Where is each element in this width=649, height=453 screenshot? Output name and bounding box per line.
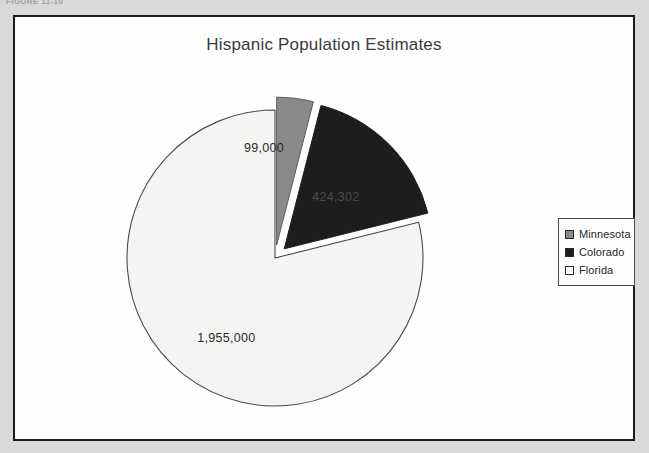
legend-swatch-florida	[565, 266, 574, 275]
legend-item-colorado[interactable]: Colorado	[565, 243, 627, 261]
legend-item-minnesota[interactable]: Minnesota	[565, 225, 627, 243]
chart-frame: Hispanic Population Estimates 99,000 424…	[13, 15, 635, 441]
pie-plot-area: 99,000 424,302 1,955,000	[15, 17, 637, 443]
legend-item-florida[interactable]: Florida	[565, 261, 627, 279]
figure-caption: FIGURE 11-10	[6, 0, 63, 6]
slice-value-label-minnesota: 99,000	[244, 141, 284, 155]
page-background: FIGURE 11-10 Hispanic Population Estimat…	[0, 0, 649, 453]
legend-swatch-minnesota	[565, 230, 574, 239]
slice-value-label-colorado: 424,302	[312, 190, 359, 204]
pie-chart-svg	[15, 17, 637, 443]
legend-label-minnesota: Minnesota	[579, 228, 631, 240]
legend-label-florida: Florida	[579, 264, 613, 276]
slice-value-label-florida: 1,955,000	[197, 331, 255, 345]
legend-swatch-colorado	[565, 248, 574, 257]
chart-legend: Minnesota Colorado Florida	[558, 218, 635, 286]
legend-label-colorado: Colorado	[579, 246, 624, 258]
